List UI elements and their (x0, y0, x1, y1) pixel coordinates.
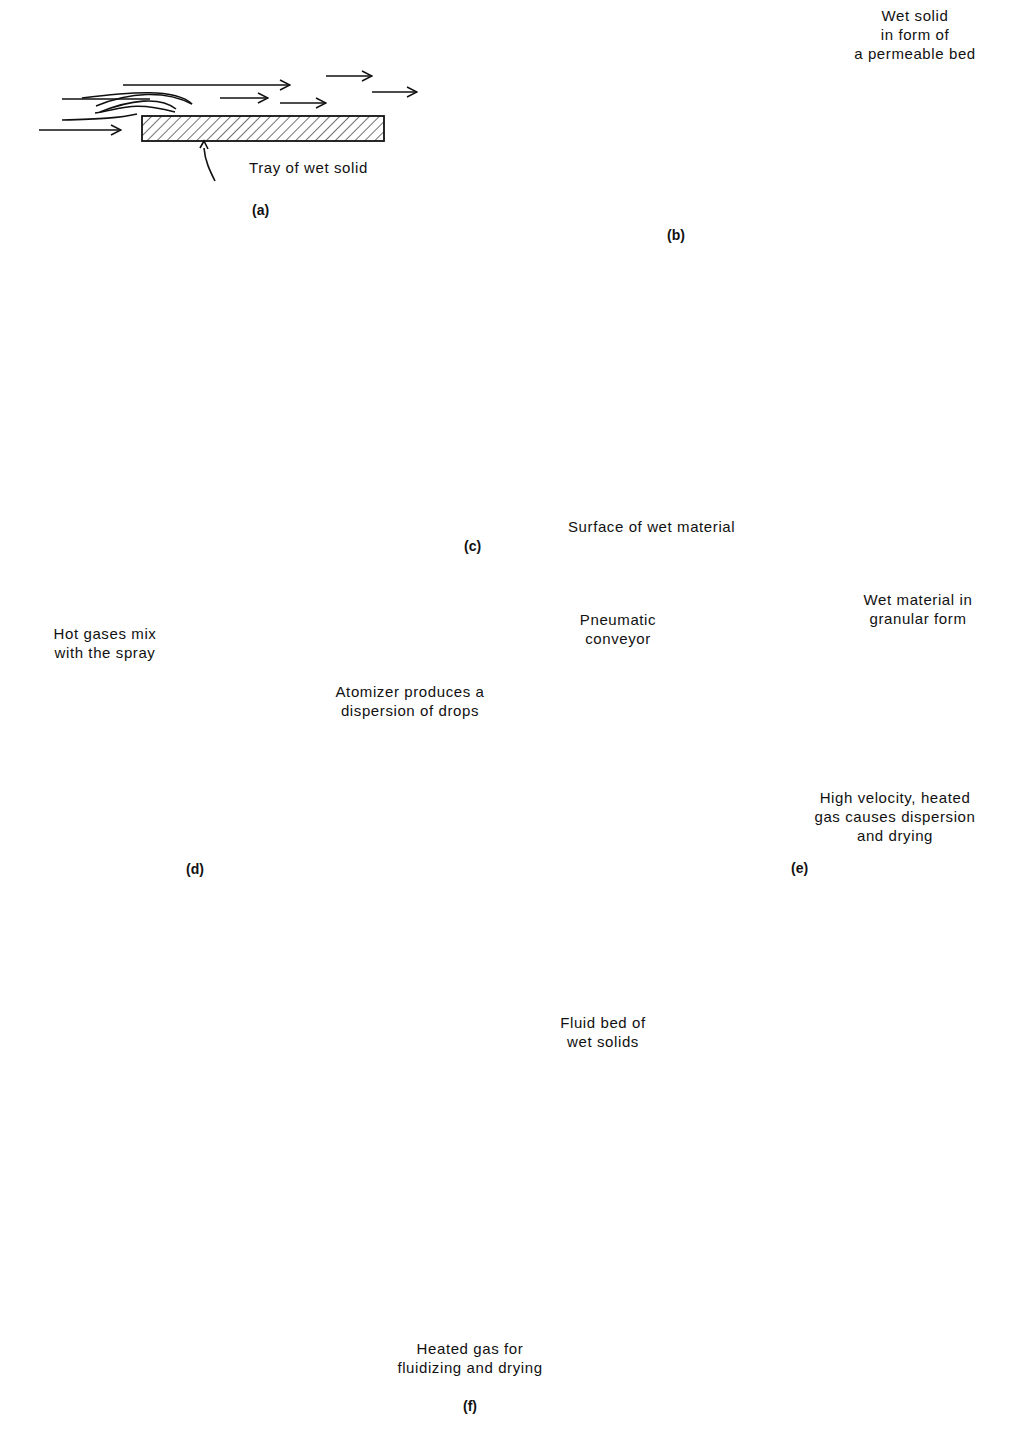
label-line: in form of (840, 25, 990, 44)
label-tray-of-wet-solid: Tray of wet solid (249, 158, 368, 177)
label-line: High velocity, heated (805, 788, 985, 807)
label-high-velocity-gas: High velocity, heated gas causes dispers… (805, 788, 985, 845)
caption-d: (d) (186, 861, 204, 877)
label-line: Wet solid (840, 6, 990, 25)
label-line: Heated gas for (370, 1339, 570, 1358)
label-wet-material-granular: Wet material in granular form (848, 590, 988, 628)
label-line: Fluid bed of (548, 1013, 658, 1032)
label-line: Atomizer produces a (320, 682, 500, 701)
label-atomizer: Atomizer produces a dispersion of drops (320, 682, 500, 720)
label-line: and drying (805, 826, 985, 845)
tray-of-wet-solid (142, 116, 384, 141)
label-line: a permeable bed (840, 44, 990, 63)
drying-methods-diagram (0, 0, 1036, 1438)
label-line: fluidizing and drying (370, 1358, 570, 1377)
label-hot-gases: Hot gases mix with the spray (40, 624, 170, 662)
label-wet-solid-bed: Wet solid in form of a permeable bed (840, 6, 990, 63)
label-line: wet solids (548, 1032, 658, 1051)
label-fluid-bed: Fluid bed of wet solids (548, 1013, 658, 1051)
label-line: granular form (848, 609, 988, 628)
caption-e: (e) (791, 860, 808, 876)
label-line: Hot gases mix (40, 624, 170, 643)
caption-b: (b) (667, 227, 685, 243)
label-line: with the spray (40, 643, 170, 662)
label-line: Wet material in (848, 590, 988, 609)
label-line: conveyor (573, 629, 663, 648)
caption-f: (f) (463, 1398, 477, 1414)
caption-c: (c) (464, 538, 481, 554)
label-line: Pneumatic (573, 610, 663, 629)
label-surface-of-wet-material: Surface of wet material (568, 517, 735, 536)
caption-a: (a) (252, 202, 269, 218)
label-heated-gas: Heated gas for fluidizing and drying (370, 1339, 570, 1377)
label-line: dispersion of drops (320, 701, 500, 720)
label-line: gas causes dispersion (805, 807, 985, 826)
label-pneumatic-conveyor: Pneumatic conveyor (573, 610, 663, 648)
